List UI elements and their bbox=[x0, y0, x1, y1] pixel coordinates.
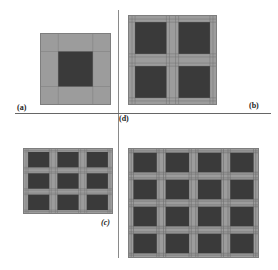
horizontal-divider bbox=[15, 113, 271, 114]
dark-square bbox=[28, 173, 49, 188]
dark-square bbox=[28, 152, 49, 167]
pattern-grid bbox=[41, 34, 110, 104]
dark-square bbox=[57, 173, 78, 188]
pattern-grid bbox=[24, 149, 112, 213]
dark-square bbox=[179, 66, 210, 98]
panel-b-label: (b) bbox=[249, 101, 259, 110]
dark-square bbox=[230, 153, 253, 172]
dark-square bbox=[134, 180, 157, 199]
vertical-divider bbox=[118, 10, 119, 258]
dark-square bbox=[179, 22, 210, 54]
dark-square bbox=[166, 234, 189, 253]
panel-c bbox=[23, 148, 113, 214]
panel-a-label: (a) bbox=[17, 103, 26, 112]
panel-c-label: (c) bbox=[101, 218, 110, 227]
panel-b bbox=[128, 15, 217, 105]
dark-square bbox=[230, 234, 253, 253]
dark-square bbox=[166, 180, 189, 199]
dark-square bbox=[57, 195, 78, 210]
dark-square bbox=[58, 52, 93, 87]
dark-square bbox=[198, 180, 221, 199]
dark-square bbox=[134, 207, 157, 226]
pattern-grid bbox=[129, 149, 258, 257]
dark-square bbox=[198, 207, 221, 226]
dark-square bbox=[134, 234, 157, 253]
dark-square bbox=[87, 173, 108, 188]
dark-square bbox=[198, 234, 221, 253]
panel-d bbox=[128, 148, 259, 258]
dark-square bbox=[57, 152, 78, 167]
dark-square bbox=[28, 195, 49, 210]
dark-square bbox=[166, 153, 189, 172]
panel-a bbox=[40, 33, 111, 105]
dark-square bbox=[166, 207, 189, 226]
dark-square bbox=[135, 22, 166, 54]
dark-square bbox=[198, 153, 221, 172]
dark-square bbox=[134, 153, 157, 172]
dark-square bbox=[87, 195, 108, 210]
dark-square bbox=[135, 66, 166, 98]
dark-square bbox=[230, 180, 253, 199]
dark-square bbox=[230, 207, 253, 226]
pattern-grid bbox=[129, 16, 216, 104]
panel-d-label: (d) bbox=[119, 114, 129, 123]
dark-square bbox=[87, 152, 108, 167]
